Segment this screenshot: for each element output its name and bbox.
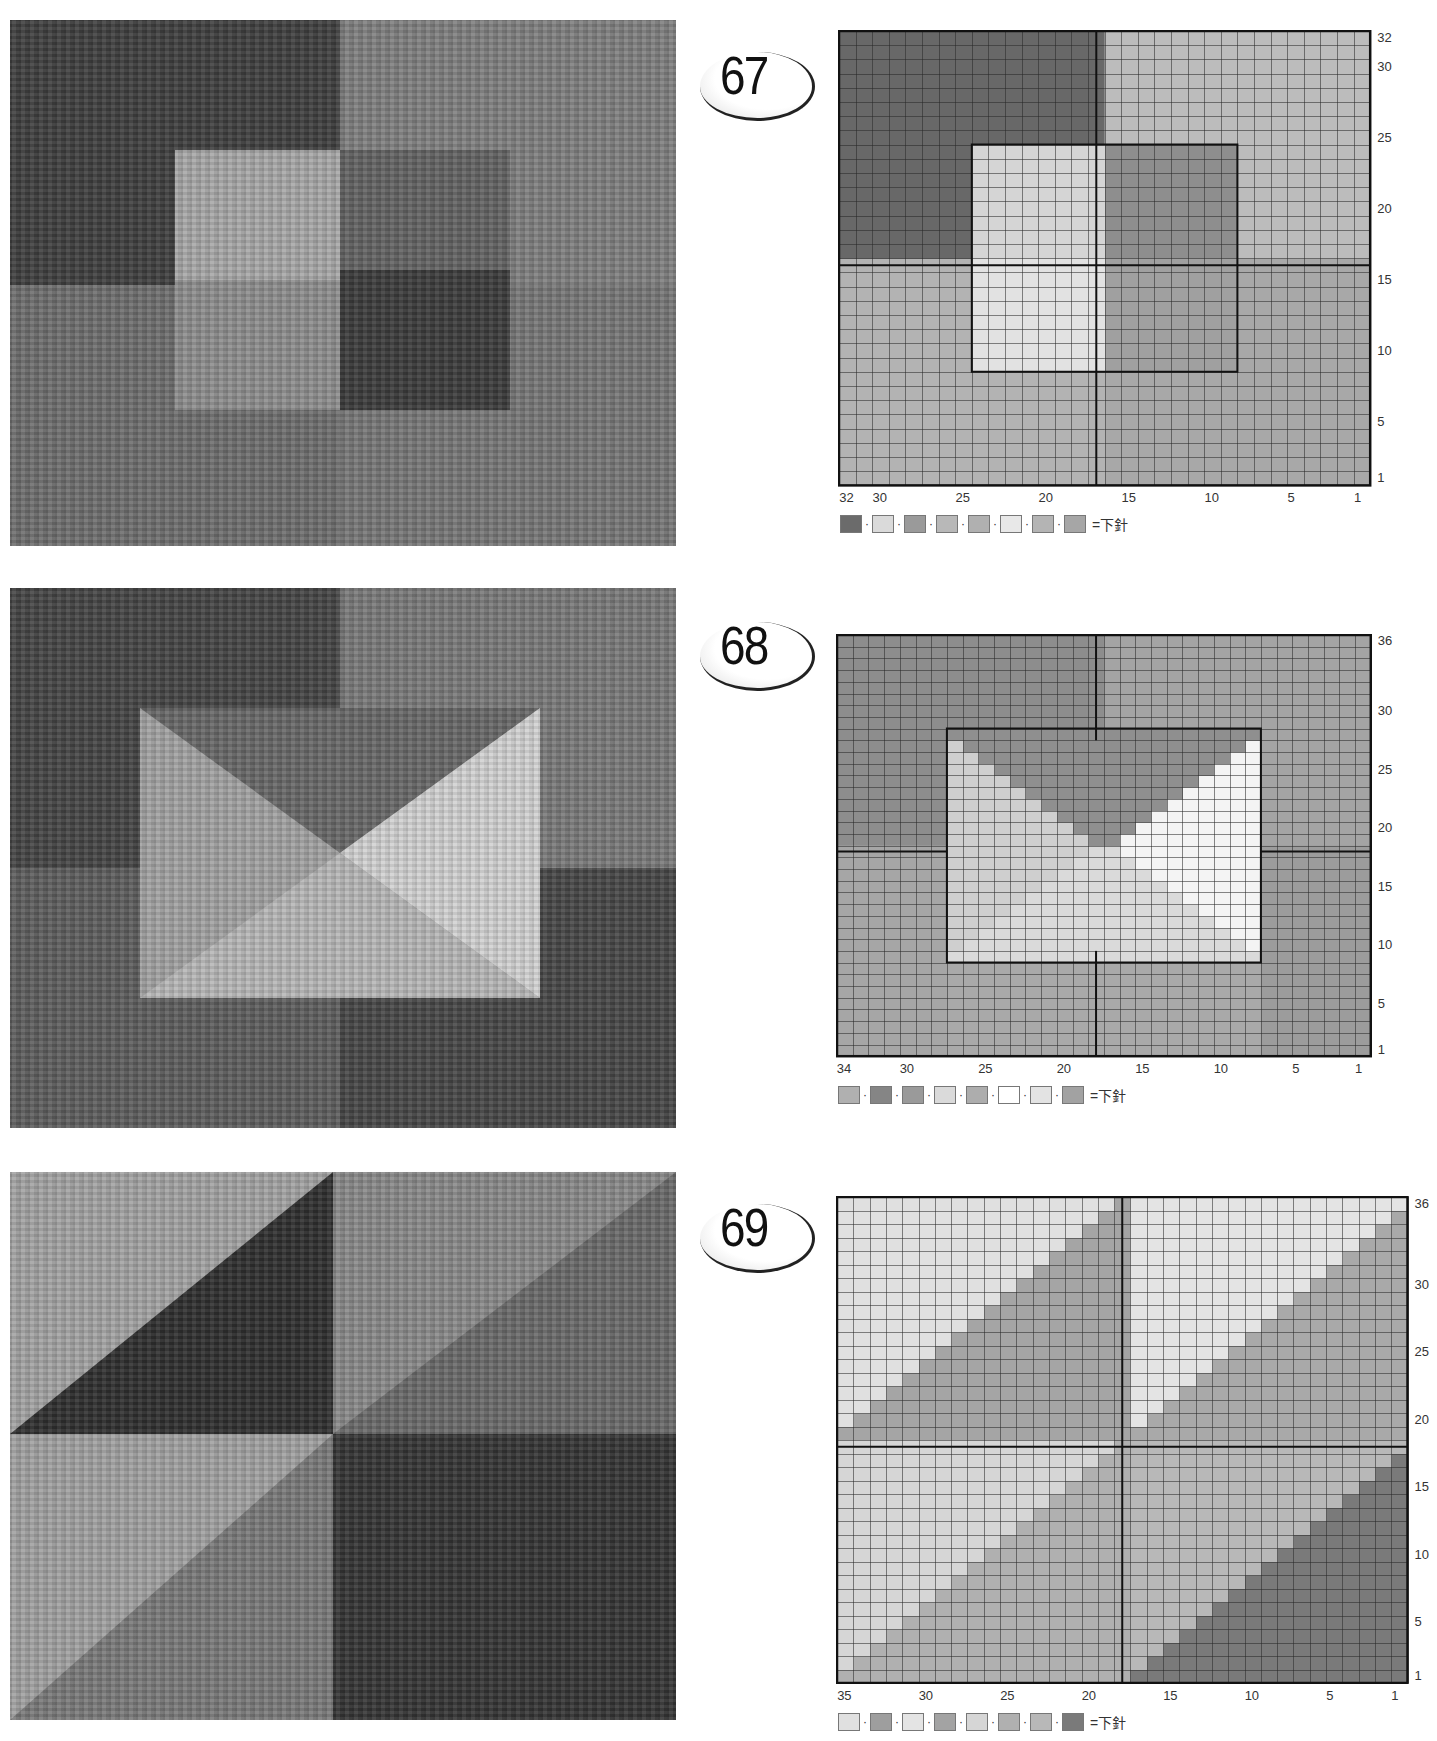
- legend-color-swatch: [904, 515, 926, 533]
- row-number-label: 25: [1378, 762, 1392, 777]
- legend-separator: ·: [1020, 1086, 1030, 1104]
- pattern-number-badge: 67: [700, 44, 820, 120]
- legend-color-swatch: [840, 515, 862, 533]
- color-legend: ·······=下針: [840, 514, 1128, 534]
- stitch-number-label: 20: [1057, 1061, 1071, 1076]
- legend-separator: ·: [956, 1713, 966, 1731]
- legend-color-swatch: [870, 1086, 892, 1104]
- legend-color-swatch: [966, 1086, 988, 1104]
- row-number-label: 20: [1415, 1412, 1429, 1427]
- stitch-number-label: 25: [956, 490, 970, 505]
- row-number-label: 5: [1378, 996, 1385, 1011]
- stitch-number-label: 25: [978, 1061, 992, 1076]
- chart-67: [838, 30, 1372, 487]
- stitch-number-label: 15: [1163, 1688, 1177, 1703]
- stitch-number-label: 10: [1205, 490, 1219, 505]
- chart-68: [836, 634, 1372, 1058]
- legend-separator: ·: [958, 515, 968, 533]
- legend-color-swatch: [968, 515, 990, 533]
- yarn-triangle-shapes: [10, 588, 676, 1128]
- stitch-number-label: 20: [1082, 1688, 1096, 1703]
- legend-color-swatch: [872, 515, 894, 533]
- legend-separator: ·: [1052, 1086, 1062, 1104]
- legend-separator: ·: [926, 515, 936, 533]
- stitch-number-label: 10: [1245, 1688, 1259, 1703]
- color-legend: ·······=下針: [838, 1712, 1126, 1732]
- legend-color-swatch: [1030, 1086, 1052, 1104]
- legend-separator: ·: [956, 1086, 966, 1104]
- photo-69: [10, 1172, 676, 1720]
- legend-separator: ·: [988, 1086, 998, 1104]
- row-number-label: 32: [1377, 30, 1391, 45]
- stitch-number-label: 34: [837, 1061, 851, 1076]
- stitch-number-label: 5: [1326, 1688, 1333, 1703]
- legend-separator: ·: [990, 515, 1000, 533]
- yarn-color-block: [340, 150, 510, 270]
- row-number-label: 5: [1415, 1614, 1422, 1629]
- legend-color-swatch: [1032, 515, 1054, 533]
- row-number-label: 20: [1378, 820, 1392, 835]
- stitch-number-label: 25: [1000, 1688, 1014, 1703]
- row-number-label: 25: [1377, 130, 1391, 145]
- row-number-label: 10: [1378, 937, 1392, 952]
- legend-color-swatch: [966, 1713, 988, 1731]
- pattern-number: 69: [720, 1196, 768, 1258]
- legend-color-swatch: [902, 1086, 924, 1104]
- legend-separator: ·: [892, 1086, 902, 1104]
- row-number-label: 1: [1415, 1668, 1422, 1683]
- legend-separator: ·: [1020, 1713, 1030, 1731]
- legend-color-swatch: [934, 1086, 956, 1104]
- legend-separator: ·: [924, 1086, 934, 1104]
- stitch-number-label: 30: [873, 490, 887, 505]
- row-number-label: 1: [1377, 470, 1384, 485]
- legend-knit-stitch-label: =下針: [1090, 1712, 1126, 1732]
- legend-color-swatch: [838, 1086, 860, 1104]
- stitch-number-label: 20: [1039, 490, 1053, 505]
- legend-separator: ·: [1052, 1713, 1062, 1731]
- stitch-grid: [836, 634, 1372, 1058]
- stitch-number-label: 10: [1214, 1061, 1228, 1076]
- legend-color-swatch: [998, 1713, 1020, 1731]
- row-number-label: 20: [1377, 201, 1391, 216]
- stitch-number-label: 35: [837, 1688, 851, 1703]
- stitch-number-label: 1: [1391, 1688, 1398, 1703]
- color-legend: ·······=下針: [838, 1085, 1126, 1105]
- row-number-label: 10: [1377, 343, 1391, 358]
- legend-separator: ·: [1022, 515, 1032, 533]
- legend-color-swatch: [902, 1713, 924, 1731]
- stitch-number-label: 30: [900, 1061, 914, 1076]
- stitch-number-label: 1: [1355, 1061, 1362, 1076]
- legend-separator: ·: [892, 1713, 902, 1731]
- legend-color-swatch: [1062, 1086, 1084, 1104]
- photo-67: [10, 20, 676, 546]
- legend-separator: ·: [1054, 515, 1064, 533]
- legend-color-swatch: [936, 515, 958, 533]
- row-number-label: 10: [1415, 1547, 1429, 1562]
- photo-68: [10, 588, 676, 1128]
- legend-separator: ·: [988, 1713, 998, 1731]
- legend-color-swatch: [998, 1086, 1020, 1104]
- stitch-number-label: 5: [1288, 490, 1295, 505]
- yarn-color-block: [175, 280, 340, 410]
- legend-separator: ·: [924, 1713, 934, 1731]
- row-number-label: 30: [1378, 703, 1392, 718]
- row-number-label: 25: [1415, 1344, 1429, 1359]
- legend-separator: ·: [862, 515, 872, 533]
- row-number-label: 5: [1377, 414, 1384, 429]
- yarn-color-block: [175, 150, 340, 280]
- legend-color-swatch: [934, 1713, 956, 1731]
- stitch-number-label: 15: [1135, 1061, 1149, 1076]
- stitch-number-label: 32: [839, 490, 853, 505]
- row-number-label: 30: [1415, 1277, 1429, 1292]
- stitch-number-label: 15: [1122, 490, 1136, 505]
- pattern-number: 68: [720, 614, 768, 676]
- legend-color-swatch: [1062, 1713, 1084, 1731]
- row-number-label: 36: [1378, 633, 1392, 648]
- row-number-label: 15: [1377, 272, 1391, 287]
- pattern-number-badge: 69: [700, 1196, 820, 1272]
- row-number-label: 30: [1377, 59, 1391, 74]
- legend-color-swatch: [1064, 515, 1086, 533]
- legend-color-swatch: [1030, 1713, 1052, 1731]
- chart-69: [836, 1196, 1409, 1684]
- row-number-label: 15: [1415, 1479, 1429, 1494]
